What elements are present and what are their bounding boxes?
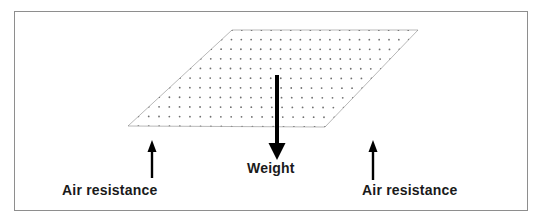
sheet-plane — [128, 30, 418, 127]
air-resistance-arrow-left — [148, 140, 157, 178]
air-resistance-label-left: Air resistance — [62, 183, 157, 197]
air-resistance-arrow-right — [369, 140, 378, 180]
air-resistance-label-right: Air resistance — [362, 183, 457, 197]
weight-label: Weight — [247, 161, 295, 175]
diagram-canvas: Weight Air resistance Air resistance — [0, 0, 543, 222]
